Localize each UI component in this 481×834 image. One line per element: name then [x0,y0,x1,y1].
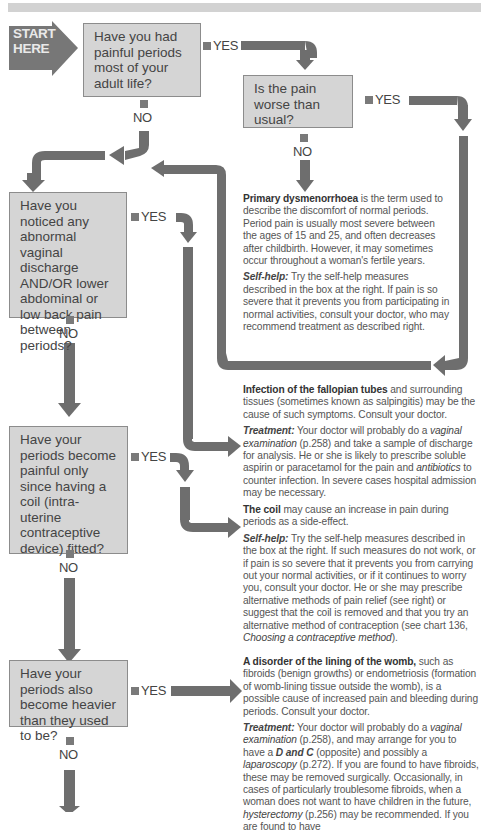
no-label: NO [293,144,312,159]
outcome-title: The coil [243,504,281,515]
chart-reference: Choosing a contraceptive method [243,632,392,643]
treatment-label: Treatment: [243,722,294,733]
yes-label: YES [131,683,166,698]
square-icon [203,42,211,50]
outcome-title: Primary dysmenorrhoea [243,193,358,204]
start-here-label: START HERE [13,26,67,56]
no-text: NO [59,560,78,575]
yes-text: YES [141,449,166,464]
treatment-text: Your doctor will probably do a [294,425,430,436]
no-label: NO [59,326,78,341]
square-icon [66,550,74,558]
square-icon [66,737,74,745]
yes-text: YES [213,38,238,53]
no-label: NO [133,110,152,125]
self-help-text: ). [392,632,398,643]
no-text: NO [293,144,312,159]
outcome-title: A disorder of the lining of the womb, [243,656,416,667]
self-help-label: Self-help: [243,533,288,544]
no-text: NO [59,326,78,341]
square-icon [131,213,139,221]
no-label: NO [59,747,78,762]
square-icon [365,96,373,104]
outcome-title: Infection of the fallopian tubes [243,384,388,395]
question-box-heavier-periods: Have your periods also become heavier th… [9,660,128,727]
start-line-2: HERE [13,41,67,56]
question-box-coil: Have your periods become painful only si… [9,426,128,554]
question-box-pain-worse: Is the pain worse than usual? [243,75,353,128]
yes-text: YES [375,92,400,107]
no-text: NO [133,110,152,125]
question-text: Have your periods become painful only si… [20,432,116,556]
square-icon [131,453,139,461]
square-icon [140,100,148,108]
square-icon [66,316,74,324]
question-text: Have you had painful periods most of you… [94,29,182,91]
question-box-abnormal-discharge: Have you noticed any abnormal vaginal di… [9,192,127,318]
yes-text: YES [141,683,166,698]
yes-label: YES [131,449,166,464]
start-line-1: START [13,26,67,41]
treatment-label: Treatment: [243,425,294,436]
outcome-womb-lining-disorder: A disorder of the lining of the womb, su… [243,656,479,834]
outcome-primary-dysmenorrhoea: Primary dysmenorrhoea is the term used t… [243,193,451,337]
antibiotics-reference: antibiotics [416,462,460,473]
treatment-text: (opposite) and possibly a [314,747,428,758]
question-text: Is the pain worse than usual? [254,81,320,127]
yes-label: YES [131,209,166,224]
yes-text: YES [141,209,166,224]
no-label: NO [59,560,78,575]
d-and-c-reference: D and C [276,747,314,758]
outcome-fallopian-infection: Infection of the fallopian tubes and sur… [243,384,479,504]
treatment-text: Your doctor will probably do a [294,722,430,733]
question-box-painful-periods: Have you had painful periods most of you… [83,23,201,97]
self-help-text: Try the self-help measures described in … [243,533,475,631]
yes-label: YES [365,92,400,107]
square-icon [131,687,139,695]
laparoscopy-reference: laparoscopy [243,759,297,770]
no-text: NO [59,747,78,762]
yes-label: YES [203,38,238,53]
outcome-coil: The coil may cause an increase in pain d… [243,504,479,648]
self-help-label: Self-help: [243,271,288,282]
square-icon [300,134,308,142]
hysterectomy-reference: hysterectomy [243,809,302,820]
